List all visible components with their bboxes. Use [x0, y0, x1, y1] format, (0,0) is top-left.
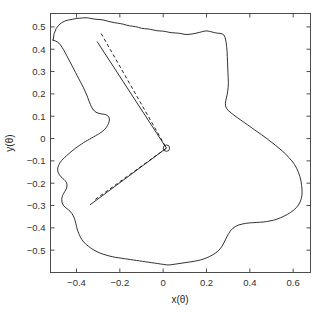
y-tick-label: 0 [40, 133, 45, 144]
y-tick-label: 0.5 [32, 21, 45, 32]
x-tick-label: −0.4 [67, 277, 86, 288]
x-tick-label: −0.2 [110, 277, 129, 288]
chart-figure: −0.4−0.200.20.40.6 −0.5−0.4−0.3−0.2−0.10… [0, 0, 330, 313]
x-tick-label: 0.2 [200, 277, 213, 288]
y-tick-label: −0.2 [27, 178, 46, 189]
y-tick-label: 0.2 [32, 88, 45, 99]
x-tick-label: 0 [161, 277, 166, 288]
contour-plot-svg: −0.4−0.200.20.40.6 −0.5−0.4−0.3−0.2−0.10… [0, 0, 330, 313]
x-tick-label: 0.4 [243, 277, 256, 288]
y-axis-label: y(θ) [4, 134, 15, 151]
y-tick-label: 0.3 [32, 66, 45, 77]
y-tick-label: −0.3 [27, 200, 46, 211]
y-tick-label: −0.5 [27, 245, 46, 256]
plot-background [0, 0, 330, 313]
x-axis-label: x(θ) [171, 294, 188, 305]
y-tick-label: −0.4 [27, 222, 46, 233]
y-tick-label: −0.1 [27, 155, 46, 166]
y-tick-label: 0.4 [32, 44, 45, 55]
x-tick-label: 0.6 [287, 277, 300, 288]
y-tick-label: 0.1 [32, 111, 45, 122]
